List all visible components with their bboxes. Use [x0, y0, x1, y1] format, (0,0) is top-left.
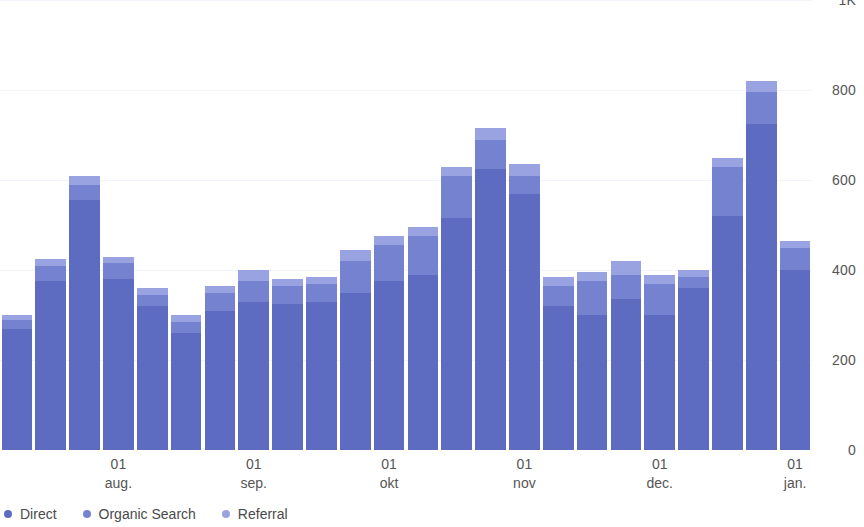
bar-segment-referral [441, 167, 472, 176]
bar-column[interactable] [340, 250, 371, 450]
x-axis-tick-month: dec. [647, 474, 673, 493]
bar-column[interactable] [238, 270, 269, 450]
bar-segment-direct [746, 124, 777, 450]
bar-segment-organic [746, 92, 777, 124]
x-axis-tick-label: 01dec. [647, 455, 673, 493]
bar-column[interactable] [205, 286, 236, 450]
bar-segment-referral [272, 279, 303, 286]
x-axis-tick-label: 01sep. [241, 455, 267, 493]
bar-segment-organic [543, 286, 574, 306]
bar-segment-organic [475, 140, 506, 169]
bar-segment-direct [137, 306, 168, 450]
bar-segment-referral [374, 236, 405, 245]
bar-segment-referral [577, 272, 608, 281]
bar-column[interactable] [171, 315, 202, 450]
bar-column[interactable] [374, 236, 405, 450]
bar-column[interactable] [272, 279, 303, 450]
bar-segment-organic [306, 284, 337, 302]
bar-segment-direct [238, 302, 269, 451]
legend-item-label: Direct [20, 506, 57, 522]
bar-column[interactable] [611, 261, 642, 450]
x-axis-tick-day: 01 [647, 455, 673, 474]
chart-legend: DirectOrganic SearchReferral [4, 506, 314, 522]
bar-segment-referral [611, 261, 642, 275]
legend-item-direct[interactable]: Direct [4, 506, 57, 522]
bar-segment-referral [475, 128, 506, 139]
bar-column[interactable] [509, 164, 540, 450]
bar-segment-organic [408, 236, 439, 274]
bar-column[interactable] [2, 315, 33, 450]
chart-bars-layer [0, 0, 812, 450]
legend-dot-icon [4, 510, 12, 518]
bar-segment-referral [35, 259, 66, 266]
bar-segment-referral [746, 81, 777, 92]
bar-segment-referral [780, 241, 811, 248]
x-axis-tick-month: aug. [105, 474, 132, 493]
bar-segment-referral [137, 288, 168, 295]
bar-segment-organic [69, 185, 100, 201]
x-axis-tick-month: okt [380, 474, 399, 493]
bar-segment-organic [205, 293, 236, 311]
bar-segment-referral [644, 275, 675, 284]
legend-dot-icon [222, 510, 230, 518]
x-axis-tick-day: 01 [784, 455, 807, 474]
bar-segment-organic [137, 295, 168, 306]
legend-item-referral[interactable]: Referral [222, 506, 288, 522]
y-axis-tick-label: 400 [832, 262, 856, 278]
bar-column[interactable] [475, 128, 506, 450]
x-axis-tick-month: sep. [241, 474, 267, 493]
bar-segment-organic [171, 322, 202, 333]
bar-segment-referral [103, 257, 134, 264]
bar-segment-organic [441, 176, 472, 219]
bar-segment-direct [306, 302, 337, 451]
bar-segment-organic [577, 281, 608, 315]
bar-column[interactable] [577, 272, 608, 450]
bar-segment-direct [35, 281, 66, 450]
x-axis-tick-label: 01nov [513, 455, 536, 493]
bar-segment-direct [509, 194, 540, 451]
bar-segment-direct [611, 299, 642, 450]
bar-column[interactable] [543, 277, 574, 450]
y-axis-tick-label: 600 [832, 172, 856, 188]
bar-column[interactable] [441, 167, 472, 451]
bar-segment-referral [678, 270, 709, 277]
legend-item-organic-search[interactable]: Organic Search [83, 506, 196, 522]
bar-column[interactable] [306, 277, 337, 450]
bar-segment-direct [2, 329, 33, 451]
bar-segment-direct [780, 270, 811, 450]
bar-segment-referral [171, 315, 202, 322]
bar-column[interactable] [35, 259, 66, 450]
bar-column[interactable] [408, 227, 439, 450]
bar-segment-direct [272, 304, 303, 450]
bar-segment-referral [205, 286, 236, 293]
bar-segment-direct [577, 315, 608, 450]
x-axis-tick-month: nov [513, 474, 536, 493]
bar-column[interactable] [780, 241, 811, 450]
bar-segment-organic [2, 320, 33, 329]
y-axis-tick-label: 200 [832, 352, 856, 368]
bar-column[interactable] [712, 158, 743, 451]
bar-segment-referral [543, 277, 574, 286]
x-axis-tick-day: 01 [513, 455, 536, 474]
x-axis-tick-label: 01okt [380, 455, 399, 493]
bar-column[interactable] [678, 270, 709, 450]
bar-segment-organic [272, 286, 303, 304]
bar-column[interactable] [137, 288, 168, 450]
bar-column[interactable] [69, 176, 100, 451]
bar-segment-direct [543, 306, 574, 450]
bar-segment-referral [712, 158, 743, 167]
x-axis-tick-day: 01 [241, 455, 267, 474]
bar-segment-referral [69, 176, 100, 185]
bar-segment-direct [475, 169, 506, 450]
chart-plot-area [0, 0, 812, 450]
bar-segment-organic [103, 263, 134, 279]
bar-column[interactable] [746, 81, 777, 450]
bar-column[interactable] [644, 275, 675, 451]
legend-item-label: Referral [238, 506, 288, 522]
bar-segment-organic [35, 266, 66, 282]
bar-segment-organic [611, 275, 642, 300]
bar-segment-direct [171, 333, 202, 450]
bar-segment-organic [780, 248, 811, 271]
x-axis-tick-day: 01 [380, 455, 399, 474]
bar-column[interactable] [103, 257, 134, 451]
